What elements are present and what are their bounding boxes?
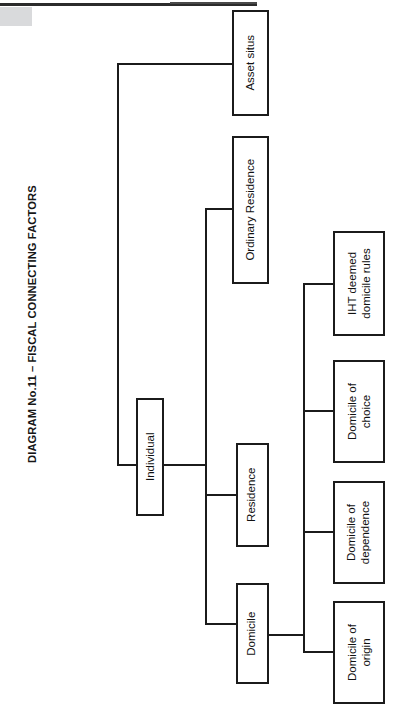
node-domicile-of-origin-label: Domicile of origin — [346, 624, 373, 681]
connector-individual-to-left-spine — [117, 464, 137, 466]
node-asset-situs-label: Asset situs — [244, 35, 258, 91]
connector-left-spine-vertical — [117, 63, 119, 466]
node-ordinary-residence[interactable]: Ordinary Residence — [232, 136, 269, 284]
node-ordinary-residence-label: Ordinary Residence — [244, 159, 258, 261]
connector-right-spine-vertical — [303, 283, 305, 653]
page-top-rule-secondary — [170, 2, 257, 4]
connector-right-spine-to-domicile-of-dependence — [303, 531, 335, 533]
node-residence-label: Residence — [246, 468, 260, 522]
connector-middle-spine-to-residence — [205, 494, 237, 496]
connector-middle-spine-to-domicile — [205, 623, 237, 625]
page-title: DIAGRAM No.11 – FISCAL CONNECTING FACTOR… — [21, 223, 43, 463]
node-individual[interactable]: Individual — [136, 398, 164, 516]
connector-left-spine-to-asset-situs — [117, 63, 233, 65]
node-domicile[interactable]: Domicile — [236, 583, 269, 684]
connector-right-spine-to-domicile-of-choice — [303, 410, 335, 412]
connector-domicile-to-right-spine — [268, 634, 305, 636]
node-domicile-of-dependence-label: Domicile of dependence — [346, 501, 373, 564]
connector-right-spine-to-iht-deemed — [303, 283, 335, 285]
connector-middle-spine-vertical — [205, 208, 207, 625]
connector-right-spine-to-domicile-of-origin — [303, 651, 335, 653]
node-domicile-of-choice[interactable]: Domicile of choice — [333, 360, 385, 463]
connector-middle-spine-to-ordinary-residence — [205, 208, 233, 210]
node-domicile-of-origin[interactable]: Domicile of origin — [333, 601, 385, 704]
node-domicile-label: Domicile — [246, 611, 260, 655]
diagram-page: DIAGRAM No.11 – FISCAL CONNECTING FACTOR… — [0, 0, 397, 711]
node-residence[interactable]: Residence — [236, 443, 269, 547]
node-iht-deemed-domicile-rules-label: IHT deemed domicile rules — [346, 248, 373, 318]
top-left-gray-block — [0, 7, 32, 26]
connector-individual-to-middle-spine — [163, 464, 207, 466]
node-iht-deemed-domicile-rules[interactable]: IHT deemed domicile rules — [333, 231, 385, 336]
node-domicile-of-choice-label: Domicile of choice — [346, 383, 373, 440]
node-domicile-of-dependence[interactable]: Domicile of dependence — [333, 481, 385, 584]
node-individual-label: Individual — [143, 433, 157, 482]
node-asset-situs[interactable]: Asset situs — [232, 10, 269, 116]
